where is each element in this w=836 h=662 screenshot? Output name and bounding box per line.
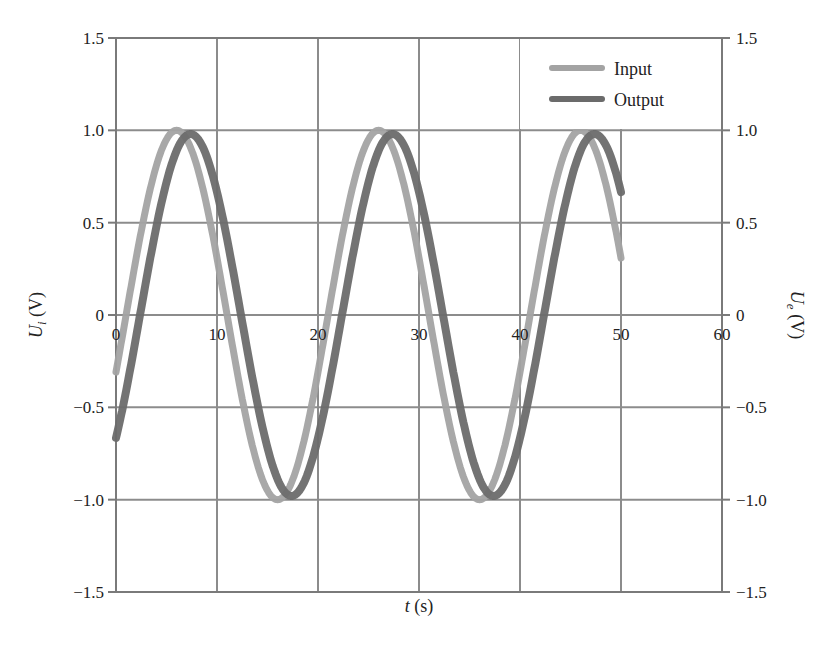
x-tick-label: 50 [613,325,630,344]
y-tick-label-left: −1.0 [73,491,104,510]
y-axis-right-ticks: 1.51.00.50−0.5−1.0−1.5 [722,29,767,602]
y-axis-left-label: Ui (V) [26,292,49,338]
y-tick-label-left: 0 [96,306,105,325]
x-tick-label: 60 [714,325,731,344]
y-tick-label-right: 1.5 [736,29,757,48]
x-tick-label: 0 [112,325,121,344]
y-axis-right-label: Ue (V) [784,291,807,339]
y-tick-label-left: 1.0 [83,121,104,140]
chart-figure: Input Output 1.51.00.50−0.5−1.0−1.5 1.51… [0,0,836,662]
y-tick-label-right: 0 [736,306,745,325]
y-tick-label-right: −1.5 [736,583,767,602]
y-tick-label-right: −1.0 [736,491,767,510]
y-tick-label-left: −1.5 [73,583,104,602]
figure-caption-cropped [0,652,836,662]
x-tick-label: 10 [209,325,226,344]
y-tick-label-right: 0.5 [736,214,757,233]
legend-label-input: Input [614,59,652,79]
x-axis-ticks: 0102030405060 [112,325,731,344]
x-tick-label: 40 [512,325,529,344]
y-tick-label-right: −0.5 [736,398,767,417]
y-tick-label-left: −0.5 [73,398,104,417]
x-tick-label: 30 [411,325,428,344]
legend-box [520,39,721,129]
legend-label-output: Output [614,90,664,110]
y-tick-label-left: 1.5 [83,29,104,48]
y-axis-left-ticks: 1.51.00.50−0.5−1.0−1.5 [73,29,116,602]
x-axis-label: t (s) [405,596,434,617]
y-tick-label-right: 1.0 [736,121,757,140]
legend: Input Output [520,39,721,129]
x-tick-label: 20 [310,325,327,344]
y-tick-label-left: 0.5 [83,214,104,233]
